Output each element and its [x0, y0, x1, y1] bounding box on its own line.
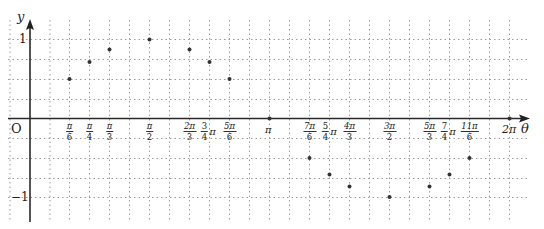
data-point — [468, 156, 472, 160]
origin-label: O — [11, 122, 22, 135]
x-tick-label-pi-3: π3 — [106, 122, 114, 141]
chart-canvas — [0, 0, 544, 229]
x-tick-label-7-4-pi: 74 π — [441, 122, 456, 141]
x-axis-label: θ — [521, 122, 529, 135]
data-point — [388, 195, 392, 199]
data-point — [508, 117, 512, 121]
x-tick-label-3-4-pi: 34 π — [201, 122, 216, 141]
data-point — [208, 60, 212, 64]
x-tick-label-pi-4: π4 — [86, 122, 94, 141]
x-tick-label-7pi-6: 7π6 — [303, 122, 316, 141]
data-point — [88, 60, 92, 64]
data-point — [68, 77, 72, 81]
data-point — [188, 48, 192, 52]
x-tick-label-pi: π — [265, 125, 272, 135]
x-tick-label-5-4-pi: 54 π — [322, 122, 337, 141]
x-tick-label-pi-2: π2 — [146, 122, 154, 141]
x-tick-label-5pi-6: 5π6 — [223, 122, 236, 141]
x-tick-label-2pi: 2π — [502, 124, 516, 135]
data-point — [308, 156, 312, 160]
data-point — [268, 117, 272, 121]
y-tick-label-1: 1 — [19, 33, 27, 45]
x-tick-label-11pi-6: 11π6 — [460, 122, 478, 141]
data-point — [448, 173, 452, 177]
y-tick-label-neg1: −1 — [11, 191, 29, 203]
data-point — [108, 48, 112, 52]
data-point — [228, 77, 232, 81]
data-point — [348, 185, 352, 189]
x-tick-label-5pi-3: 5π3 — [423, 122, 436, 141]
x-tick-label-pi-6: π6 — [66, 122, 74, 141]
data-point — [148, 38, 152, 42]
x-tick-label-2pi-3: 2π3 — [183, 122, 196, 141]
x-tick-label-3pi-2: 3π2 — [383, 122, 396, 141]
y-axis-label: y — [17, 10, 24, 23]
data-point — [328, 173, 332, 177]
x-tick-label-4pi-3: 4π3 — [343, 122, 356, 141]
data-point — [428, 185, 432, 189]
